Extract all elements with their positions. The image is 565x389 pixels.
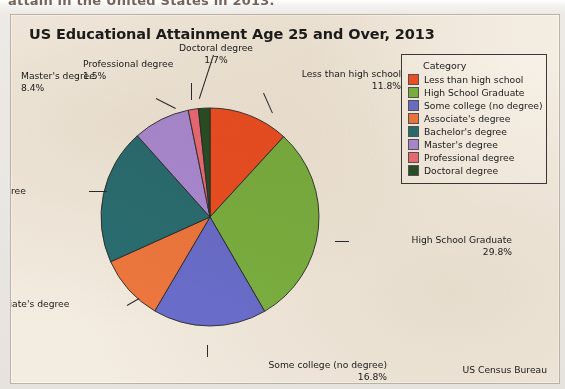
legend-item-label: Bachelor's degree [424,126,507,137]
pie-label-some-college-value: 16.8% [197,371,387,383]
legend-item-label: Associate's degree [424,113,510,124]
pie-label-professional-degree-name: Professional degree [83,58,173,69]
pie-label-associates-degree: Associate's degree 9.8% [10,298,123,321]
legend-rows: Less than high schoolHigh School Graduat… [408,73,540,177]
pie-label-bachelors-degree-value: 20.1% [10,197,83,209]
legend-swatch [408,139,419,150]
leader-line-bachelors [89,191,107,192]
legend-swatch [408,152,419,163]
pie-label-less-than-high-school-name: Less than high school [302,68,401,79]
pie-label-high-school-graduate-value: 29.8% [352,246,512,258]
pie-label-masters-degree-value: 8.4% [21,82,151,94]
legend-item-label: High School Graduate [424,87,525,98]
legend-item[interactable]: Some college (no degree) [408,99,540,112]
legend-item-label: Doctoral degree [424,165,498,176]
pie-label-associates-degree-value: 9.8% [10,310,123,322]
legend-item-label: Some college (no degree) [424,100,543,111]
clipped-document-heading: attain in the United States in 2013. [8,0,428,7]
legend-item[interactable]: Master's degree [408,138,540,151]
legend-item-label: Less than high school [424,74,523,85]
pie-label-high-school-graduate: High School Graduate 29.8% [352,234,512,257]
legend: Category Less than high schoolHigh Schoo… [401,54,547,184]
legend-item[interactable]: Professional degree [408,151,540,164]
leader-line-professional [191,83,192,100]
source-note: US Census Bureau [463,364,548,375]
pie-label-some-college-name: Some college (no degree) [268,359,387,370]
legend-item-label: Professional degree [424,152,514,163]
leader-line-somecollege [207,345,208,357]
pie-label-masters-degree: Master's degree 8.4% [21,70,151,93]
pie-slice-group [101,108,319,326]
legend-swatch [408,87,419,98]
legend-swatch [408,74,419,85]
pie-label-high-school-graduate-name: High School Graduate [411,234,512,245]
leader-line-highschool [335,241,349,242]
pie-label-less-than-high-school: Less than high school 11.8% [251,68,401,91]
pie-label-associates-degree-name: Associate's degree [10,298,69,309]
legend-swatch [408,100,419,111]
pie-label-less-than-high-school-value: 11.8% [251,80,401,92]
legend-item-label: Master's degree [424,139,498,150]
pie-label-bachelors-degree-name: Bachelor's degree [10,185,26,196]
pie-label-some-college: Some college (no degree) 16.8% [197,359,387,382]
legend-item[interactable]: Doctoral degree [408,164,540,177]
legend-item[interactable]: Associate's degree [408,112,540,125]
legend-swatch [408,165,419,176]
legend-item[interactable]: Bachelor's degree [408,125,540,138]
legend-item[interactable]: Less than high school [408,73,540,86]
chart-panel: US Educational Attainment Age 25 and Ove… [10,14,560,384]
legend-swatch [408,126,419,137]
pie-label-bachelors-degree: Bachelor's degree 20.1% [10,185,83,208]
legend-title: Category [423,60,540,71]
legend-item[interactable]: High School Graduate [408,86,540,99]
pie-label-masters-degree-name: Master's degree [21,70,95,81]
legend-swatch [408,113,419,124]
pie-label-doctoral-degree-name: Doctoral degree [179,42,253,53]
